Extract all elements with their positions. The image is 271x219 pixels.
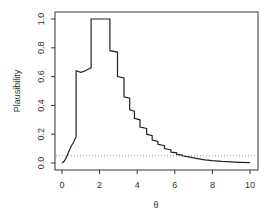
- x-tick-label: 6: [172, 180, 177, 190]
- x-tick-label: 10: [245, 180, 255, 190]
- y-tick-label: 1.0: [36, 13, 46, 26]
- x-tick-label: 0: [59, 180, 64, 190]
- x-tick-label: 8: [210, 180, 215, 190]
- plot-frame: [55, 12, 258, 170]
- y-axis-title: Plausibility: [12, 69, 22, 112]
- y-axis: 0.00.20.40.60.81.0: [36, 13, 55, 170]
- plausibility-curve: [62, 19, 250, 163]
- x-tick-label: 2: [97, 180, 102, 190]
- x-axis-title: θ: [153, 200, 158, 210]
- y-tick-label: 0.0: [36, 157, 46, 170]
- x-tick-label: 4: [135, 180, 140, 190]
- x-axis: 0246810: [59, 170, 255, 190]
- plausibility-chart: 0.00.20.40.60.81.0 0246810 θ Plausibilit…: [0, 0, 271, 219]
- y-tick-label: 0.4: [36, 99, 46, 112]
- y-tick-label: 0.2: [36, 128, 46, 141]
- y-tick-label: 0.6: [36, 70, 46, 83]
- y-tick-label: 0.8: [36, 42, 46, 55]
